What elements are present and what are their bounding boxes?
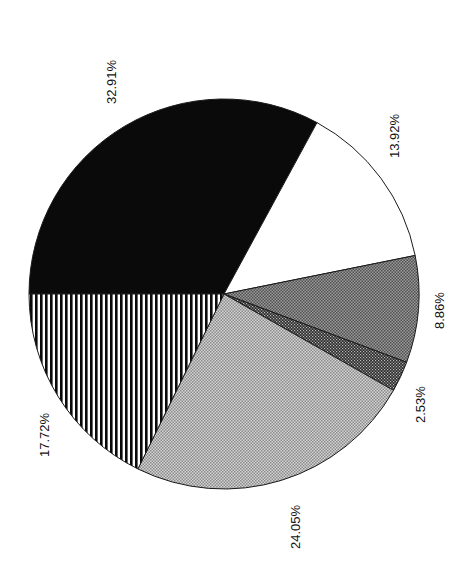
slice-label-13-92: 13.92% xyxy=(387,113,402,158)
slice-label-17-72: 17.72% xyxy=(37,412,52,457)
slice-label-24-05: 24.05% xyxy=(288,504,303,549)
slice-label-32-91: 32.91% xyxy=(104,59,119,104)
slice-label-8-86: 8.86% xyxy=(432,292,447,329)
pie-slices xyxy=(29,99,419,489)
slice-label-2-53: 2.53% xyxy=(413,386,428,423)
pie-chart: 32.91% 13.92% 8.86% 2.53% 24.05% 17.72% xyxy=(0,0,474,561)
